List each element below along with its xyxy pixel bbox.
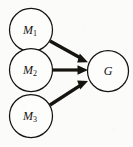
node-g[interactable]: G [88, 51, 129, 92]
edge-m2-to-g [53, 65, 88, 75]
node-m3[interactable]: M3 [10, 95, 53, 138]
node-g-label: G [104, 63, 113, 77]
edge-m1-to-g-arrowhead [77, 54, 88, 63]
edge-m3-to-g [50, 81, 88, 105]
diagram-canvas: M1 M2 M3 G [0, 0, 133, 147]
diagram-svg: M1 M2 M3 G [0, 0, 133, 147]
node-m1[interactable]: M1 [10, 9, 53, 52]
edge-m3-to-g-line [50, 85, 82, 105]
edge-m1-to-g-line [50, 41, 82, 59]
edge-m1-to-g [50, 41, 88, 62]
node-m2[interactable]: M2 [10, 49, 53, 92]
edge-m2-to-g-arrowhead [78, 65, 89, 75]
